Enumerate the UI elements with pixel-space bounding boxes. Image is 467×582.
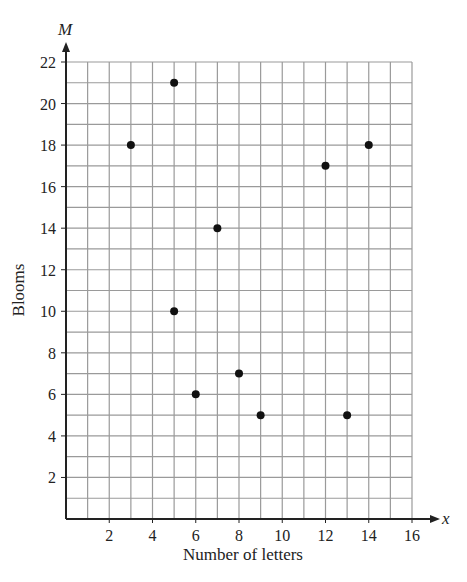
y-tick-label: 22 — [40, 54, 56, 71]
y-tick-label: 2 — [48, 469, 56, 486]
x-axis-variable: x — [441, 509, 450, 528]
data-point — [343, 411, 351, 419]
y-tick-label: 4 — [48, 428, 56, 445]
x-axis-title: Number of letters — [183, 545, 303, 564]
y-tick-label: 20 — [40, 96, 56, 113]
y-tick-label: 8 — [48, 345, 56, 362]
data-point — [127, 141, 135, 149]
data-point — [257, 411, 265, 419]
y-tick-label: 10 — [40, 303, 56, 320]
x-tick-label: 4 — [149, 527, 157, 544]
data-point — [322, 162, 330, 170]
data-point — [170, 79, 178, 87]
axes — [62, 42, 440, 523]
y-tick-label: 18 — [40, 137, 56, 154]
y-tick-label: 16 — [40, 179, 56, 196]
y-axis-variable: M — [57, 20, 73, 39]
grid-lines — [66, 62, 412, 519]
data-point — [170, 307, 178, 315]
x-tick-label: 16 — [404, 527, 420, 544]
x-tick-label: 6 — [192, 527, 200, 544]
data-point — [192, 390, 200, 398]
y-tick-label: 6 — [48, 386, 56, 403]
data-point — [365, 141, 373, 149]
y-tick-label: 14 — [40, 220, 56, 237]
scatter-chart: 246810121416246810121416182022 Number of… — [0, 0, 467, 582]
y-axis-title: Blooms — [9, 264, 28, 317]
x-tick-label: 8 — [235, 527, 243, 544]
data-point — [213, 224, 221, 232]
x-tick-label: 14 — [361, 527, 377, 544]
x-tick-label: 12 — [318, 527, 334, 544]
y-tick-label: 12 — [40, 262, 56, 279]
tick-labels: 246810121416246810121416182022 — [40, 54, 420, 544]
x-tick-label: 2 — [105, 527, 113, 544]
x-tick-label: 10 — [274, 527, 290, 544]
data-point — [235, 370, 243, 378]
